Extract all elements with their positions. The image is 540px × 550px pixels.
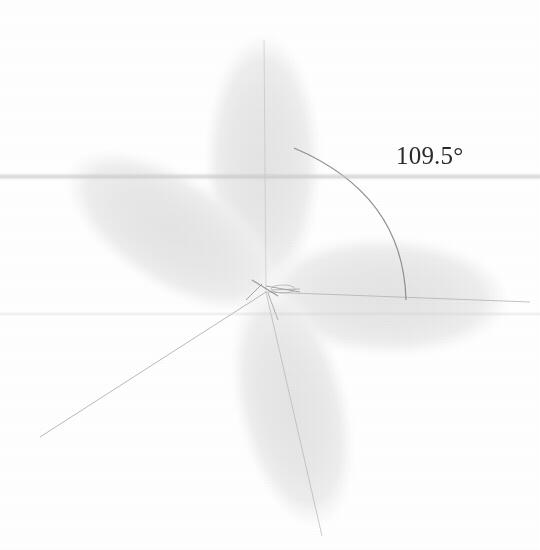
bond-angle-label: 109.5° xyxy=(396,143,463,168)
axis-line-lower-left xyxy=(40,292,266,437)
orbital-canvas xyxy=(0,0,540,550)
orbital-diagram: 109.5° xyxy=(0,0,540,550)
